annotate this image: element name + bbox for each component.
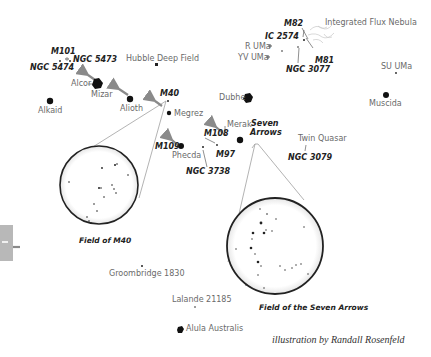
label-ngc5474: NGC 5474: [30, 64, 74, 72]
label-ngc3079: NGC 3079: [288, 154, 332, 162]
label-groombridge-1830: Groombridge 1830: [109, 270, 184, 278]
label-m109: M109: [155, 143, 180, 151]
label-dubhe: Dubhe: [219, 94, 245, 102]
label-twin-quasar: Twin Quasar: [298, 135, 347, 143]
star-muscida: [383, 92, 389, 98]
label-megrez: Megrez: [174, 110, 203, 118]
caption-field-of-m40: Field of M40: [79, 236, 131, 245]
star-megrez: [167, 111, 171, 115]
star-alioth: [127, 96, 133, 102]
illustration-credit: illustration by Randall Rosenfeld: [272, 334, 405, 345]
label-yv-uma: YV UMa: [238, 54, 269, 62]
label-r-uma: R UMa: [245, 43, 271, 51]
integrated-flux-nebula: [308, 25, 334, 43]
side-tab[interactable]: [0, 225, 13, 261]
label-alula-australis: Alula Australis: [186, 325, 243, 333]
label-ngc5473: NGC 5473: [73, 56, 117, 64]
label-m108: M108: [204, 130, 229, 138]
field-of-m40: [60, 146, 138, 224]
label-m81: M81: [315, 57, 334, 65]
label-phecda: Phecda: [172, 152, 201, 160]
label-ngc3077: NGC 3077: [286, 66, 330, 74]
label-m40: M40: [160, 90, 179, 98]
label-m101: M101: [51, 48, 76, 56]
star-alula: [177, 326, 184, 333]
arrow-left-icon: [2, 241, 8, 243]
label-m82: M82: [284, 20, 303, 28]
label-su-uma: SU UMa: [381, 63, 412, 71]
star-alkaid: [47, 98, 53, 104]
field-of-seven-arrows: [227, 198, 323, 294]
label-integrated-flux-nebula: Integrated Flux Nebula: [325, 19, 417, 27]
label-ic2574: IC 2574: [265, 33, 299, 41]
label-seven-arrows-line2: Arrows: [250, 129, 282, 137]
label-alkaid: Alkaid: [38, 107, 62, 115]
label-alcor: Alcor: [71, 80, 91, 88]
label-merak: Merak: [227, 121, 252, 129]
star-merak: [237, 137, 243, 143]
label-muscida: Muscida: [369, 100, 402, 108]
label-ngc3738: NGC 3738: [186, 168, 230, 176]
leader-lines: [88, 28, 313, 167]
label-lalande-21185: Lalande 21185: [172, 296, 232, 304]
label-hubble-deep-field: Hubble Deep Field: [126, 55, 199, 63]
caption-field-of-seven-arrows: Field of the Seven Arrows: [259, 303, 368, 312]
label-alioth: Alioth: [120, 105, 143, 113]
label-m97: M97: [216, 151, 235, 159]
label-seven-arrows-line1: Seven: [251, 120, 279, 128]
label-mizar: Mizar: [91, 91, 113, 99]
